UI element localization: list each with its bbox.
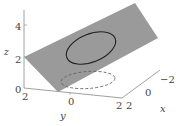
z-tick-0: 0 xyxy=(15,85,21,95)
y-tick-0: 0 xyxy=(68,97,74,107)
z-axis-label: z xyxy=(4,48,9,57)
y-tick-2: 2 xyxy=(116,101,122,111)
x-axis-label: x xyxy=(160,104,166,114)
x-axis-line xyxy=(122,70,160,98)
y-axis-label: y xyxy=(60,111,66,121)
y-tick-m2: 2 xyxy=(22,92,28,102)
x-tick-m2: −2 xyxy=(160,75,175,85)
plot-canvas xyxy=(0,0,176,126)
z-tick-4: 4 xyxy=(15,22,21,32)
z-tick-2: 2 xyxy=(15,55,21,65)
x-tick-2: 2 xyxy=(126,101,132,111)
plot-3d: 4 z 2 0 2 0 2 y 2 0 −2 x xyxy=(0,0,176,126)
x-tick-0: 0 xyxy=(145,88,151,98)
plane-surface xyxy=(24,3,158,92)
